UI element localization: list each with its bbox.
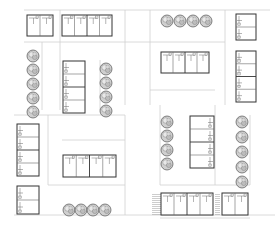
tree-icon bbox=[27, 78, 39, 90]
tree-icon bbox=[75, 204, 87, 216]
tree-icon bbox=[27, 106, 39, 118]
tree-row-trees-east bbox=[236, 116, 248, 188]
tree-icon bbox=[236, 116, 248, 128]
tree-icon bbox=[236, 131, 248, 143]
stair-hatch bbox=[152, 195, 161, 215]
building-block-l bbox=[222, 193, 248, 215]
building-block-k bbox=[161, 193, 213, 215]
tree-icon bbox=[100, 63, 112, 75]
tree-icon bbox=[236, 176, 248, 188]
pathways bbox=[14, 10, 275, 218]
tree-icon bbox=[187, 15, 199, 27]
tree-icon bbox=[27, 92, 39, 104]
building-block-d bbox=[161, 52, 209, 73]
tree-row-trees-mid-north bbox=[100, 63, 112, 117]
tree-icon bbox=[99, 204, 111, 216]
building-block-c bbox=[63, 61, 85, 113]
tree-row-trees-south bbox=[63, 204, 111, 216]
tree-icon bbox=[236, 161, 248, 173]
tree-icon bbox=[100, 105, 112, 117]
tree-icon bbox=[161, 158, 173, 170]
tree-icon bbox=[161, 144, 173, 156]
building-block-i bbox=[63, 155, 116, 177]
building-block-j bbox=[190, 116, 214, 168]
tree-row-trees-west bbox=[27, 50, 39, 118]
building-block-g bbox=[17, 124, 39, 176]
tree-row-trees-center-east bbox=[161, 116, 173, 170]
building-block-b bbox=[62, 15, 112, 36]
tree-icon bbox=[161, 130, 173, 142]
site-plan bbox=[0, 0, 275, 235]
tree-icon bbox=[161, 15, 173, 27]
tree-icon bbox=[27, 64, 39, 76]
tree-icon bbox=[236, 146, 248, 158]
tree-icon bbox=[100, 77, 112, 89]
tree-icon bbox=[100, 91, 112, 103]
tree-icon bbox=[161, 116, 173, 128]
building-block-f bbox=[236, 51, 256, 102]
tree-icon bbox=[200, 15, 212, 27]
tree-icon bbox=[87, 204, 99, 216]
tree-icon bbox=[174, 15, 186, 27]
tree-icon bbox=[27, 50, 39, 62]
building-block-h bbox=[17, 186, 39, 214]
tree-row-trees-top-right bbox=[161, 15, 212, 27]
stair-hatch bbox=[215, 195, 220, 215]
building-block-e bbox=[236, 14, 256, 40]
building-block-a bbox=[27, 15, 53, 36]
tree-icon bbox=[63, 204, 75, 216]
